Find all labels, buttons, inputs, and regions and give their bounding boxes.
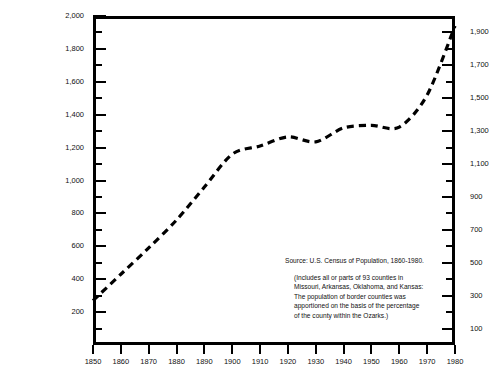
left-axis-tick: [93, 212, 106, 214]
left-axis-label: 1,600: [44, 78, 84, 86]
source-note-block: Source: U.S. Census of Population, 1860-…: [285, 256, 445, 320]
right-axis-label: 300: [470, 292, 483, 300]
left-axis-minor-tick: [93, 31, 102, 33]
left-axis-label: 400: [44, 275, 84, 283]
year-axis-tick: [287, 345, 289, 354]
right-axis-tick: [442, 163, 455, 165]
right-axis-label: 1,700: [470, 61, 489, 69]
year-axis-tick: [454, 345, 456, 354]
left-axis-tick: [93, 245, 106, 247]
right-axis-label: 1,900: [470, 28, 489, 36]
right-axis-minor-tick: [446, 212, 455, 214]
right-axis-tick: [442, 328, 455, 330]
left-axis-label: 2,000: [44, 12, 84, 20]
right-axis-tick: [442, 31, 455, 33]
left-axis-label: 800: [44, 209, 84, 217]
left-axis-tick: [93, 48, 106, 50]
left-axis-tick: [93, 180, 106, 182]
year-axis-tick: [426, 345, 428, 354]
right-axis-minor-tick: [446, 81, 455, 83]
year-axis-tick: [92, 345, 94, 354]
source-line: Source: U.S. Census of Population, 1860-…: [285, 256, 445, 266]
note-line: (Includes all or parts of 93 counties in: [294, 273, 445, 283]
right-axis-tick: [442, 196, 455, 198]
note-line: The population of border counties was: [294, 292, 445, 302]
left-axis-tick: [93, 15, 106, 17]
year-axis-tick: [120, 345, 122, 354]
year-axis-tick: [315, 345, 317, 354]
year-axis-label: 1980: [438, 358, 472, 366]
right-axis-label: 1,300: [470, 127, 489, 135]
year-axis-tick: [176, 345, 178, 354]
left-axis-label: 200: [44, 308, 84, 316]
right-axis-tick: [442, 130, 455, 132]
left-axis-minor-tick: [93, 328, 102, 330]
right-axis-tick: [442, 229, 455, 231]
year-axis-tick: [370, 345, 372, 354]
right-axis-label: 500: [470, 259, 483, 267]
left-axis-minor-tick: [93, 262, 102, 264]
left-axis-label: 600: [44, 242, 84, 250]
right-axis-label: 900: [470, 193, 483, 201]
left-axis-tick: [93, 81, 106, 83]
left-axis-minor-tick: [93, 130, 102, 132]
left-axis-label: 1,000: [44, 177, 84, 185]
right-axis-minor-tick: [446, 278, 455, 280]
right-axis-tick: [442, 64, 455, 66]
left-axis-tick: [93, 147, 106, 149]
left-axis-minor-tick: [93, 97, 102, 99]
left-axis-minor-tick: [93, 229, 102, 231]
left-axis-label: 1,400: [44, 111, 84, 119]
year-axis-tick: [231, 345, 233, 354]
right-axis-label: 100: [470, 325, 483, 333]
population-line-chart: 2004006008001,0001,2001,4001,6001,8002,0…: [0, 0, 493, 373]
left-axis-minor-tick: [93, 196, 102, 198]
left-axis-minor-tick: [93, 64, 102, 66]
note-line: apportioned on the basis of the percenta…: [294, 301, 445, 311]
right-axis-minor-tick: [446, 180, 455, 182]
right-axis-minor-tick: [446, 48, 455, 50]
year-axis-tick: [398, 345, 400, 354]
right-axis-label: 1,500: [470, 94, 489, 102]
year-axis-tick: [203, 345, 205, 354]
right-axis-minor-tick: [446, 245, 455, 247]
year-axis-tick: [259, 345, 261, 354]
right-axis-minor-tick: [446, 147, 455, 149]
note-line: of the county within the Ozarks.): [294, 311, 445, 321]
left-axis-tick: [93, 311, 106, 313]
right-axis-tick: [442, 97, 455, 99]
left-axis-label: 1,200: [44, 144, 84, 152]
left-axis-tick: [93, 114, 106, 116]
left-axis-tick: [93, 278, 106, 280]
right-axis-label: 700: [470, 226, 483, 234]
left-axis-minor-tick: [93, 163, 102, 165]
left-axis-minor-tick: [93, 295, 102, 297]
note-line: Missouri, Arkansas, Oklahoma, and Kansas…: [294, 282, 445, 292]
left-axis-label: 1,800: [44, 45, 84, 53]
right-axis-minor-tick: [446, 114, 455, 116]
year-axis-tick: [148, 345, 150, 354]
year-axis-tick: [343, 345, 345, 354]
right-axis-label: 1,100: [470, 160, 489, 168]
source-note-body: (Includes all or parts of 93 counties in…: [294, 273, 445, 321]
right-axis-minor-tick: [446, 311, 455, 313]
